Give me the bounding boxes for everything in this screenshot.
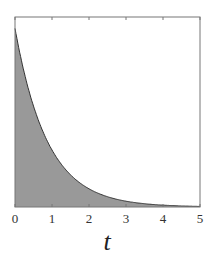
x-tick-label: 2 <box>86 211 93 226</box>
x-tick-label: 0 <box>12 211 19 226</box>
x-tick-label: 1 <box>49 211 56 226</box>
x-axis-label: t <box>103 227 111 256</box>
x-tick-label: 3 <box>123 211 130 226</box>
x-tick-label: 4 <box>160 211 167 226</box>
plot-area: 012345 <box>12 17 204 226</box>
area-fill <box>15 28 200 207</box>
x-tick-label: 5 <box>197 211 204 226</box>
chart: 012345 t <box>0 0 214 268</box>
